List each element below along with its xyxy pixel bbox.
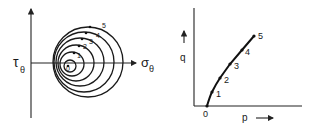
mohr-circle-diagram: 0 1 2 3 4 5 τ θ σ θ <box>13 9 154 118</box>
sigma-label: σ <box>141 55 149 70</box>
circle-label-4: 4 <box>96 32 100 39</box>
circle-label-0: 0 <box>66 65 70 72</box>
tau-label: τ <box>13 54 19 70</box>
sigma-subscript: θ <box>149 64 154 74</box>
point-label-0: 0 <box>203 109 208 119</box>
circle-label-1: 1 <box>77 52 81 59</box>
point-label-3: 3 <box>234 61 239 71</box>
point-label-4: 4 <box>245 47 250 57</box>
stress-path-points <box>205 34 255 107</box>
tau-subscript: θ <box>20 65 25 75</box>
mohr-circle-5 <box>53 27 123 97</box>
circle-label-5: 5 <box>102 22 106 29</box>
diagram-canvas: 0 1 2 3 4 5 τ θ σ θ q p 0 1 2 3 4 5 <box>0 0 312 128</box>
stress-path-diagram: q p 0 1 2 3 4 5 <box>180 8 302 123</box>
point-label-2: 2 <box>224 75 229 85</box>
circle-label-3: 3 <box>89 38 93 45</box>
circle-label-2: 2 <box>83 43 87 50</box>
point-label-5: 5 <box>258 31 263 41</box>
point-label-1: 1 <box>216 89 221 99</box>
q-label: q <box>180 52 186 63</box>
p-label: p <box>242 112 248 123</box>
